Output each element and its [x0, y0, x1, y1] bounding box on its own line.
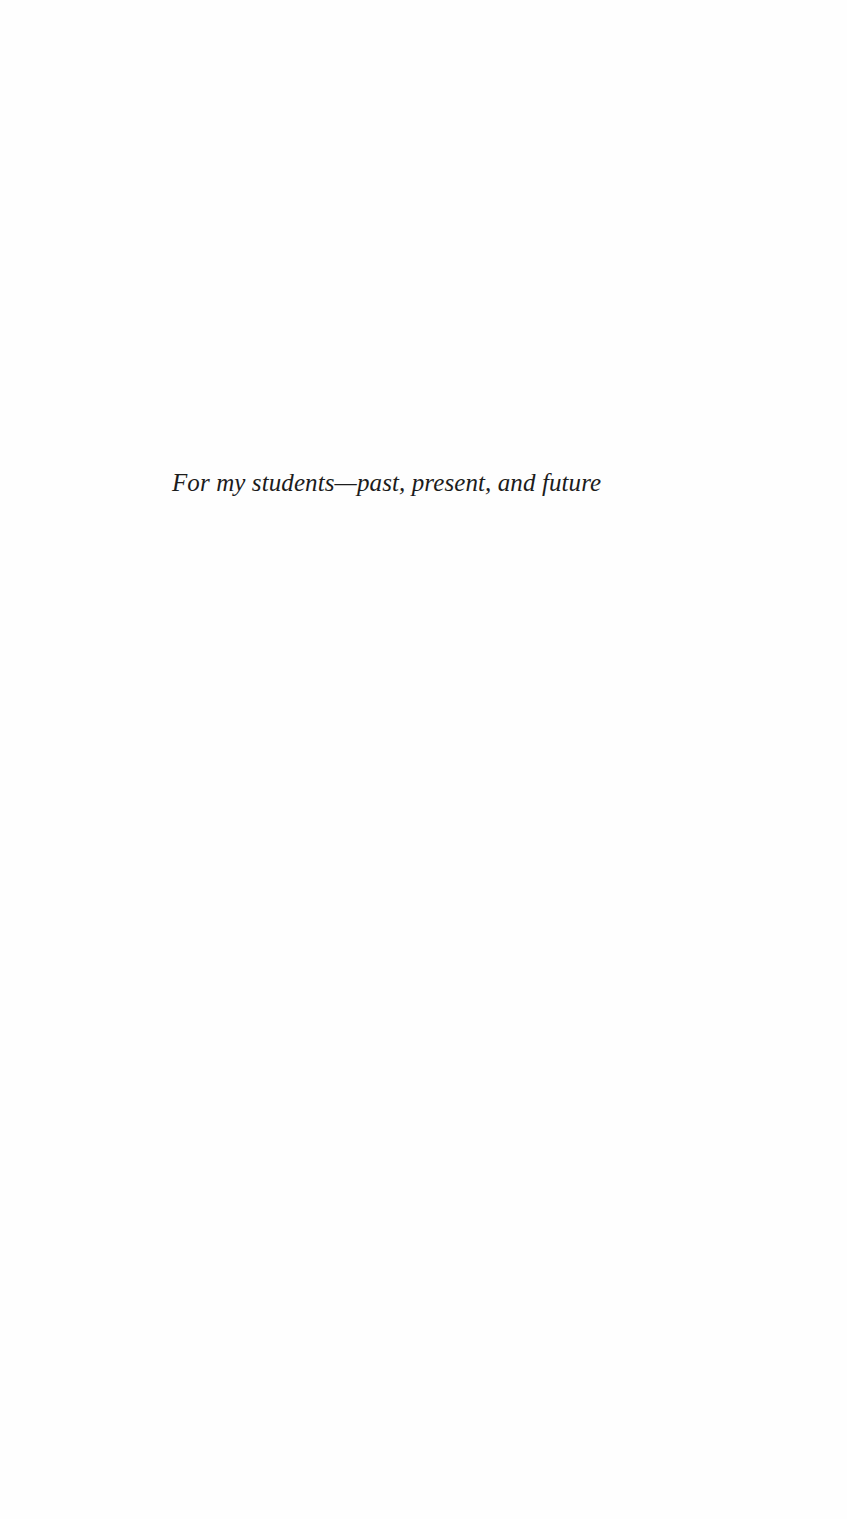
book-page: For my students—past, present, and futur…	[0, 0, 847, 1519]
dedication-text: For my students—past, present, and futur…	[172, 466, 601, 500]
